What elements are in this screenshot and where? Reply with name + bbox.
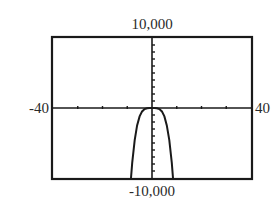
graph-screen [0,0,280,211]
